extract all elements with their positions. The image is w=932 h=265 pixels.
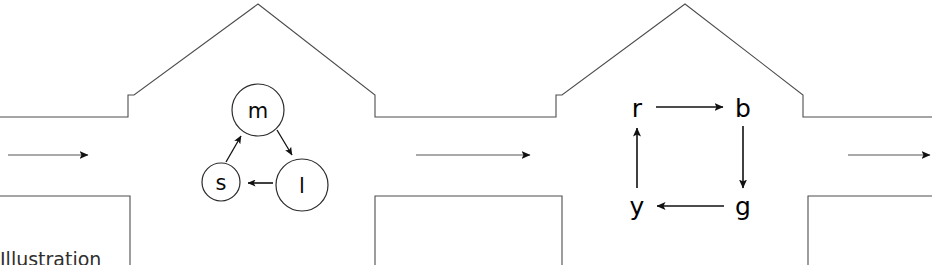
- graph-node-m: m: [232, 84, 284, 136]
- duct-upper-wall-path: [0, 4, 932, 117]
- edge-s-to-m: [226, 136, 241, 162]
- node-g-label: g: [735, 192, 751, 221]
- graph-node-s: s: [202, 163, 240, 201]
- cycle-diagram-plain: r b g y: [630, 94, 751, 221]
- cycle-diagram-circled: m l s: [202, 84, 328, 211]
- node-s-label: s: [216, 171, 227, 195]
- figure-canvas: m l s r b g y: [0, 0, 932, 265]
- duct-lower-wall-right-path: [808, 196, 932, 265]
- graph-node-l: l: [276, 159, 328, 211]
- edge-m-to-l: [277, 130, 292, 155]
- clipped-caption-text: Illustration: [0, 248, 420, 265]
- node-b-label: b: [735, 94, 751, 123]
- node-r-label: r: [632, 94, 643, 123]
- node-y-label: y: [630, 192, 645, 221]
- duct-upper-wall: [0, 4, 932, 117]
- node-m-label: m: [248, 99, 268, 123]
- node-l-label: l: [299, 174, 305, 198]
- figure-drawing: m l s r b g y: [0, 0, 932, 265]
